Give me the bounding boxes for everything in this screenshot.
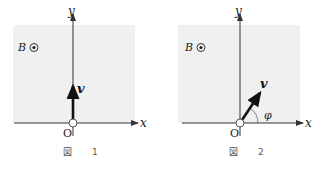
diagram-canvas: B v y x O 図 1 B v φ y x O 図 2 bbox=[0, 0, 320, 169]
magnetic-field-region bbox=[178, 25, 300, 123]
angle-label: φ bbox=[264, 109, 272, 122]
field-label: B bbox=[17, 41, 26, 54]
figure-1: B v y x O 図 1 bbox=[13, 4, 147, 157]
origin-label: O bbox=[63, 127, 72, 140]
velocity-label: v bbox=[260, 76, 268, 91]
x-axis-label: x bbox=[305, 116, 312, 130]
figure-caption-symbol: 図 bbox=[63, 147, 72, 157]
y-axis-label: y bbox=[234, 4, 242, 18]
origin-label: O bbox=[230, 127, 239, 140]
figure-caption-symbol: 図 bbox=[229, 147, 238, 157]
figure-caption-number: 1 bbox=[92, 147, 98, 157]
field-label: B bbox=[184, 41, 193, 54]
x-axis-label: x bbox=[140, 116, 147, 130]
particle-origin-circle bbox=[236, 119, 244, 127]
y-axis-label: y bbox=[67, 4, 75, 18]
figure-2: B v φ y x O 図 2 bbox=[178, 4, 312, 157]
velocity-label: v bbox=[77, 81, 85, 96]
particle-origin-circle bbox=[69, 119, 77, 127]
figure-caption-number: 2 bbox=[258, 147, 264, 157]
